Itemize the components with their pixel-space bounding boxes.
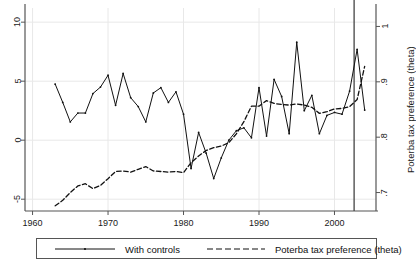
axis-lines [25,4,378,211]
legend-label-poterba: Poterba tax preference (theta) [275,244,402,255]
y-axis-left-tick-0: 10 [12,17,22,27]
y-axis-left-tick-3: -5 [12,195,22,203]
legend-label-with-controls: With controls [125,244,180,255]
y-axis-left-tick-1: 5 [12,79,22,84]
y-axis-right-tick-3: .7 [379,189,389,197]
gridlines [25,8,376,211]
x-axis-tick-1960: 1960 [23,218,43,228]
x-axis-tick-1990: 1990 [249,218,269,228]
x-axis-tick-2000: 2000 [324,218,344,228]
y-axis-right-tick-1: .9 [379,78,389,86]
x-axis-tick-1980: 1980 [174,218,194,228]
x-axis-tick-1970: 1970 [98,218,118,228]
y-axis-right-tick-0: 1 [379,24,389,29]
y-axis-right-tick-2: .8 [379,133,389,141]
y-axis-left-tick-2: 0 [12,138,22,143]
chart-legend: With controls Poterba tax preference (th… [36,238,377,259]
data-series-group [54,41,365,206]
y-axis-right-title: Poterba tax preference (theta) [405,46,416,173]
